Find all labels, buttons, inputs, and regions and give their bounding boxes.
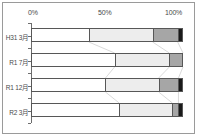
connector-line: [105, 92, 119, 103]
bar-row: [31, 53, 183, 67]
bar-segment-segment-2: [115, 53, 170, 67]
bar-segment-segment-3: [159, 78, 179, 92]
connector-line: [178, 67, 183, 78]
bar-segment-segment-2: [119, 103, 172, 117]
bar-row: [31, 103, 183, 117]
stacked-bar-chart: 0%50%100% H31 3月R1 7月R1 12月R2 3月: [3, 3, 196, 135]
bar-segment-segment-4: [178, 103, 183, 117]
x-tick-label-0: 0%: [28, 9, 38, 16]
bar-segment-segment-3: [153, 28, 178, 42]
x-tick-label-50: 50%: [98, 9, 111, 16]
category-label-0: H31 3月: [3, 32, 29, 42]
bar-segment-segment-3: [169, 53, 183, 67]
bar-segment-segment-2: [105, 78, 158, 92]
bar-segment-segment-2: [89, 28, 153, 42]
bar-row: [31, 28, 183, 42]
axis-tick: [28, 98, 31, 99]
chart-frame: 0%50%100% H31 3月R1 7月R1 12月R2 3月: [2, 2, 195, 134]
bar-segment-segment-1: [31, 53, 115, 67]
category-label-1: R1 7月: [3, 57, 29, 67]
axis-tick: [28, 23, 31, 24]
connector-line: [159, 92, 173, 103]
bar-segment-segment-4: [178, 28, 183, 42]
x-tick-label-100: 100%: [165, 9, 182, 16]
bar-segment-segment-4: [178, 78, 183, 92]
category-label-2: R1 12月: [3, 82, 29, 92]
category-label-3: R2 3月: [3, 107, 29, 117]
axis-tick: [28, 48, 31, 49]
connector-line: [159, 67, 170, 78]
connector-line: [153, 42, 170, 53]
connector-line: [178, 42, 183, 53]
bar-row: [31, 78, 183, 92]
bar-segment-segment-1: [31, 78, 105, 92]
axis-tick: [28, 73, 31, 74]
bar-segment-segment-1: [31, 103, 119, 117]
bar-segment-segment-1: [31, 28, 89, 42]
connector-line: [89, 42, 115, 53]
connector-line: [105, 67, 114, 78]
axis-tick: [28, 123, 31, 124]
